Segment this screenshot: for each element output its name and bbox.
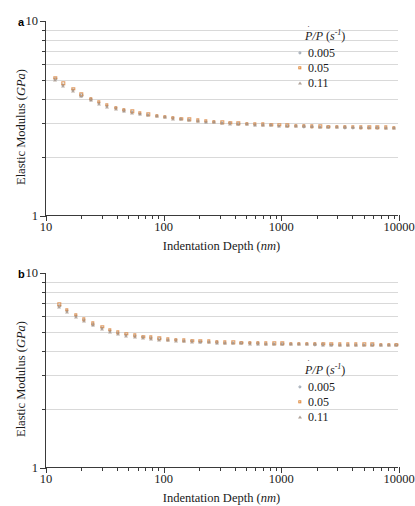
data-point xyxy=(240,341,243,344)
data-point xyxy=(370,343,374,346)
data-point xyxy=(91,324,95,327)
data-point xyxy=(229,122,232,125)
data-point xyxy=(278,124,281,127)
x-axis-tick-minor xyxy=(199,467,200,471)
data-point xyxy=(359,126,363,129)
x-axis-title-b: Indentation Depth (nm) xyxy=(45,491,398,506)
data-point xyxy=(351,126,355,129)
data-point xyxy=(124,332,127,335)
data-point xyxy=(91,322,94,325)
data-point xyxy=(354,343,358,346)
data-point xyxy=(114,107,117,110)
data-point xyxy=(248,342,252,345)
panel-label-b: b xyxy=(18,268,25,280)
data-point xyxy=(261,123,265,126)
data-point xyxy=(305,343,309,346)
data-point xyxy=(105,103,108,106)
data-point xyxy=(117,331,120,334)
data-point xyxy=(130,111,134,114)
data-point xyxy=(187,119,191,122)
data-point xyxy=(141,335,144,338)
x-axis-tick-minor xyxy=(263,215,264,219)
x-axis-tick-minor xyxy=(255,215,256,219)
data-point xyxy=(318,125,322,128)
x-axis-tick-minor xyxy=(317,215,318,219)
triangle-marker-icon xyxy=(294,411,305,422)
data-point xyxy=(256,342,260,345)
x-axis-tick-minor xyxy=(145,467,146,471)
data-point xyxy=(155,114,158,117)
data-point xyxy=(54,77,57,80)
data-point xyxy=(384,126,388,129)
data-point xyxy=(335,125,339,128)
data-point xyxy=(223,341,227,344)
data-point xyxy=(182,339,185,342)
data-point xyxy=(269,124,273,127)
data-point xyxy=(289,342,292,345)
data-point xyxy=(346,343,350,346)
data-point xyxy=(196,119,199,122)
y-axis-tick-label: 1 xyxy=(32,209,38,224)
y-axis-title-b: Elastic Modulus (GPa) xyxy=(14,321,29,437)
data-point xyxy=(190,340,194,343)
x-axis-tick-minor xyxy=(128,215,129,219)
x-axis-tick-minor xyxy=(158,467,159,471)
x-axis-tick-minor xyxy=(352,467,353,471)
data-point xyxy=(270,124,273,127)
data-point xyxy=(215,341,218,344)
data-point xyxy=(79,95,83,98)
legend-entry-label: 0.005 xyxy=(308,46,335,60)
data-point xyxy=(264,342,268,345)
data-point xyxy=(138,111,141,114)
x-axis-title-text: Indentation Depth xyxy=(163,491,254,505)
data-point xyxy=(245,122,248,125)
data-point xyxy=(335,126,338,129)
data-point xyxy=(61,84,65,87)
x-axis-tick-minor xyxy=(152,467,153,471)
x-axis-tick-minor xyxy=(337,467,338,471)
legend-title-b: P˙/P (s-1) xyxy=(305,360,345,377)
data-point xyxy=(97,101,100,104)
data-point xyxy=(166,337,169,340)
data-point xyxy=(253,123,257,126)
data-point xyxy=(261,123,264,126)
data-point xyxy=(376,126,379,129)
data-point xyxy=(248,341,251,344)
data-point xyxy=(147,113,150,116)
data-point xyxy=(256,341,259,344)
x-axis-tick-label: 1000 xyxy=(269,472,294,487)
data-point xyxy=(196,120,200,123)
data-point xyxy=(191,340,194,343)
x-axis-tick-minor xyxy=(373,467,374,471)
data-point xyxy=(264,342,267,345)
x-axis-units: (nm) xyxy=(257,491,281,505)
data-point xyxy=(149,336,152,339)
data-point xyxy=(182,340,186,343)
data-point xyxy=(105,105,109,108)
data-point xyxy=(80,94,83,97)
data-point xyxy=(65,308,68,311)
legend-entry-label: 0.05 xyxy=(308,61,329,75)
y-axis-tick-label: 1 xyxy=(32,461,38,476)
data-point xyxy=(327,125,330,128)
data-point xyxy=(338,343,342,346)
data-point xyxy=(335,125,338,128)
data-point xyxy=(294,125,297,128)
data-point xyxy=(289,343,293,346)
data-point xyxy=(223,340,226,343)
data-point xyxy=(171,117,174,120)
data-point xyxy=(108,330,112,333)
data-point xyxy=(204,120,207,123)
data-point xyxy=(395,343,398,346)
data-point xyxy=(379,343,383,346)
y-axis-title-a: Elastic Modulus (GPa) xyxy=(14,69,29,185)
data-point xyxy=(54,76,57,79)
data-point xyxy=(248,342,251,345)
data-point xyxy=(237,122,240,125)
x-axis-tick-minor xyxy=(246,467,247,471)
x-axis-tick-minor xyxy=(102,467,103,471)
data-point xyxy=(326,125,330,128)
legend-entry-label: 0.11 xyxy=(308,76,329,90)
data-point xyxy=(97,100,100,103)
x-axis-tick-minor xyxy=(388,467,389,471)
